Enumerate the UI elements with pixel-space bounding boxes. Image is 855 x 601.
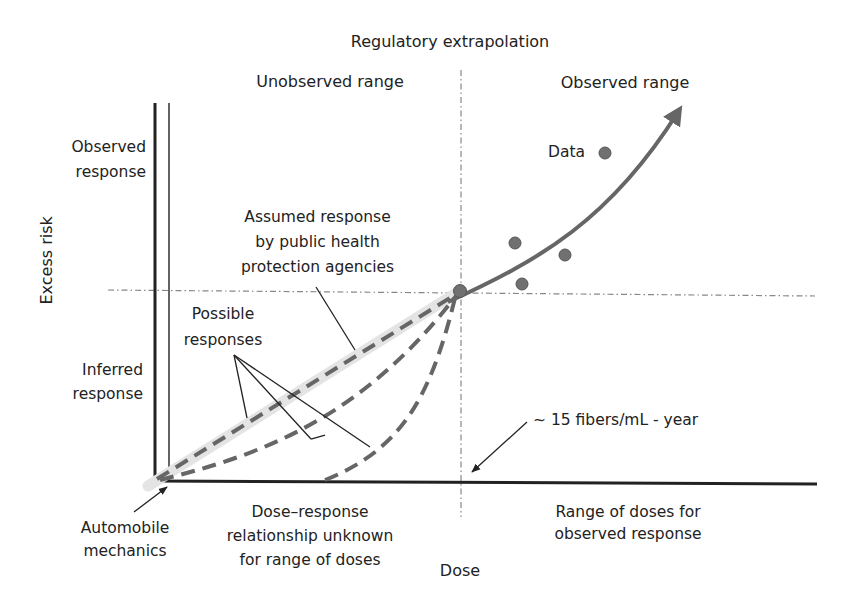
assumed-line2: by public health bbox=[210, 230, 425, 255]
diagram-title: Regulatory extrapolation bbox=[290, 32, 610, 52]
threshold-arrow bbox=[472, 422, 527, 472]
threshold-dose-label: ~ 15 fibers/mL - year bbox=[533, 410, 698, 430]
threshold-point bbox=[454, 285, 467, 298]
observed-range-label: Observed range bbox=[540, 73, 710, 93]
data-point bbox=[516, 278, 528, 290]
assumed-response-leader bbox=[316, 287, 355, 350]
assumed-line1: Assumed response bbox=[210, 205, 425, 230]
x-axis bbox=[154, 481, 817, 484]
automobile-mechanics-label: Automobile mechanics bbox=[60, 517, 190, 563]
x-axis-label: Dose bbox=[420, 561, 500, 581]
observed-response-line2: response bbox=[30, 162, 146, 182]
threshold-response-curve bbox=[325, 298, 455, 480]
inferred-response-line1: Inferred bbox=[30, 360, 143, 380]
data-point bbox=[599, 147, 611, 159]
mechanics-line2: mechanics bbox=[60, 540, 190, 563]
observed-dose-line2: observed response bbox=[528, 523, 728, 545]
data-points bbox=[454, 147, 612, 298]
unknown-line2: relationship unknown bbox=[205, 524, 415, 548]
unknown-range-label: Dose–response relationship unknown for r… bbox=[205, 500, 415, 572]
y-axis bbox=[155, 103, 169, 481]
inferred-response-label: Inferred response bbox=[30, 360, 143, 404]
observed-response-label: Observed response bbox=[30, 137, 146, 182]
assumed-response-label: Assumed response by public health protec… bbox=[210, 205, 425, 280]
possible-line1: Possible bbox=[168, 301, 278, 327]
unknown-line1: Dose–response bbox=[205, 500, 415, 524]
data-point bbox=[559, 249, 571, 261]
assumed-line3: protection agencies bbox=[210, 255, 425, 280]
inferred-response-line2: response bbox=[30, 384, 143, 404]
data-point bbox=[509, 237, 521, 249]
data-label: Data bbox=[548, 142, 585, 162]
y-axis-label: Excess risk bbox=[37, 225, 56, 305]
possible-line2: responses bbox=[168, 327, 278, 353]
unobserved-range-label: Unobserved range bbox=[225, 72, 435, 92]
unknown-line3: for range of doses bbox=[205, 548, 415, 572]
mechanics-line1: Automobile bbox=[60, 517, 190, 540]
observed-dose-range-label: Range of doses for observed response bbox=[528, 501, 728, 545]
observed-dose-line1: Range of doses for bbox=[528, 501, 728, 523]
possible-responses-label: Possible responses bbox=[168, 301, 278, 353]
observed-response-curve bbox=[448, 112, 678, 302]
observed-response-line1: Observed bbox=[30, 137, 146, 157]
